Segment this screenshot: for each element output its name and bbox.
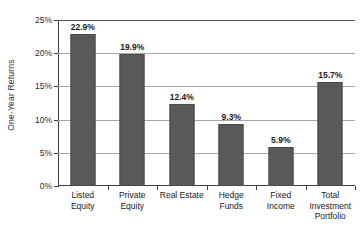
x-axis-category-label: PrivateEquity	[108, 190, 158, 211]
bars-layer: 22.9%19.9%12.4%9.3%5.9%15.7%	[58, 20, 355, 186]
y-axis-tick-mark	[54, 120, 58, 121]
x-axis-category-label-line: Fixed	[256, 190, 306, 201]
bar-value-label: 15.7%	[318, 70, 342, 80]
bar-value-label: 22.9%	[71, 22, 95, 32]
x-axis-category-label-line: Real Estate	[157, 190, 207, 201]
y-axis-tick-mark	[54, 153, 58, 154]
x-axis-category-label-line: Equity	[108, 201, 158, 212]
bar-value-label: 9.3%	[222, 112, 241, 122]
x-axis-tick-mark	[355, 186, 356, 190]
bar[interactable]	[169, 104, 194, 186]
bar[interactable]	[318, 82, 343, 186]
x-axis-category-label-line: Investment	[306, 201, 356, 212]
bar-group[interactable]: 15.7%	[306, 20, 356, 186]
bar[interactable]	[70, 34, 95, 186]
y-axis-tick-labels: 0%5%10%15%20%25%	[22, 20, 52, 186]
bar-group[interactable]: 5.9%	[256, 20, 306, 186]
x-axis-category-label: ListedEquity	[58, 190, 108, 211]
bar-value-label: 5.9%	[271, 135, 290, 145]
y-axis-tick-label: 0%	[40, 181, 52, 191]
x-axis-category-labels: ListedEquityPrivateEquityReal EstateHedg…	[58, 190, 355, 246]
plot-area: 22.9%19.9%12.4%9.3%5.9%15.7%	[58, 20, 355, 186]
bar[interactable]	[120, 54, 145, 186]
y-axis-tick-label: 10%	[35, 115, 52, 125]
x-axis-category-label-line: Total	[306, 190, 356, 201]
bar-group[interactable]: 12.4%	[157, 20, 207, 186]
bar[interactable]	[219, 124, 244, 186]
bar-value-label: 12.4%	[170, 92, 194, 102]
x-axis-category-label: FixedIncome	[256, 190, 306, 211]
y-axis-tick-label: 20%	[35, 48, 52, 58]
bar-group[interactable]: 19.9%	[108, 20, 158, 186]
x-axis-category-label-line: Private	[108, 190, 158, 201]
y-axis-tick-mark	[54, 186, 58, 187]
x-axis-category-label-line: Portfolio	[306, 211, 356, 222]
y-axis-tick-label: 25%	[35, 15, 52, 25]
x-axis-category-label: Real Estate	[157, 190, 207, 201]
x-axis-category-label: HedgeFunds	[207, 190, 257, 211]
bar-group[interactable]: 9.3%	[207, 20, 257, 186]
y-axis-title-text: One-Year Returns	[6, 59, 16, 130]
x-axis-category-label-line: Equity	[58, 201, 108, 212]
x-axis-category-label: TotalInvestmentPortfolio	[306, 190, 356, 222]
x-axis-category-label-line: Hedge	[207, 190, 257, 201]
bar-value-label: 19.9%	[120, 42, 144, 52]
bar-group[interactable]: 22.9%	[58, 20, 108, 186]
y-axis-title: One-Year Returns	[4, 0, 18, 190]
x-axis-category-label-line: Funds	[207, 201, 257, 212]
y-axis-tick-mark	[54, 86, 58, 87]
y-axis-tick-label: 5%	[40, 148, 52, 158]
y-axis-tick-label: 15%	[35, 81, 52, 91]
bar-chart: One-Year Returns 0%5%10%15%20%25% 22.9%1…	[0, 0, 364, 247]
y-axis-tick-mark	[54, 20, 58, 21]
x-axis-category-label-line: Listed	[58, 190, 108, 201]
x-axis-category-label-line: Income	[256, 201, 306, 212]
y-axis-tick-mark	[54, 53, 58, 54]
bar[interactable]	[268, 147, 293, 186]
